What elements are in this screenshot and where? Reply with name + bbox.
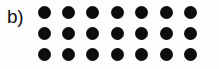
dot-marker (184, 6, 197, 19)
dot-marker (111, 27, 124, 40)
dot-marker (38, 48, 51, 61)
figure-panel: b) (0, 0, 219, 69)
dot-marker (184, 27, 197, 40)
dot-row (0, 48, 219, 61)
dot-marker (86, 48, 99, 61)
dot-marker (111, 48, 124, 61)
dot-marker (111, 6, 124, 19)
dot-marker (135, 48, 148, 61)
dot-marker (62, 48, 75, 61)
dot-marker (62, 6, 75, 19)
dot-marker (160, 6, 173, 19)
dot-marker (86, 6, 99, 19)
dot-marker (184, 48, 197, 61)
dot-marker (38, 27, 51, 40)
dot-marker (160, 27, 173, 40)
dot-grid (0, 0, 219, 69)
dot-marker (86, 27, 99, 40)
dot-row (0, 27, 219, 40)
dot-marker (62, 27, 75, 40)
dot-marker (38, 6, 51, 19)
dot-marker (160, 48, 173, 61)
dot-marker (135, 27, 148, 40)
dot-row (0, 6, 219, 19)
dot-marker (135, 6, 148, 19)
